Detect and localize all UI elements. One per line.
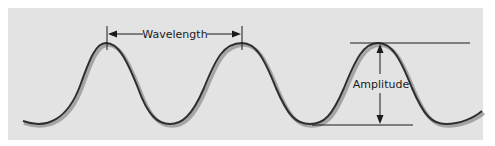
wave-shadow [24,45,484,126]
wavelength-label: Wavelength [142,28,207,41]
arrowhead-left-icon [108,31,117,38]
amplitude-label: Amplitude [353,78,410,91]
wave-diagram: Wavelength Amplitude [0,0,495,146]
arrowhead-down-icon [377,115,384,124]
arrowhead-right-icon [232,31,241,38]
